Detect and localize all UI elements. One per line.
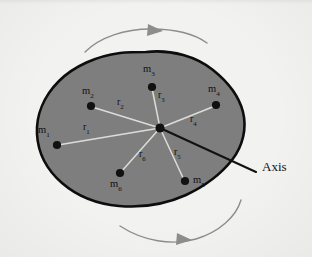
top-rotation-arrow (85, 24, 207, 52)
mass-point-4 (212, 101, 220, 109)
mass-label-6: m6 (110, 179, 122, 192)
mass-point-3 (148, 83, 156, 91)
rigid-body-shape (37, 51, 245, 206)
axis-label: Axis (262, 160, 287, 173)
mass-label-1: m1 (38, 125, 50, 138)
radius-label-6: r6 (139, 149, 146, 162)
mass-label-3: m3 (143, 64, 155, 77)
mass-point-5 (181, 177, 189, 185)
radius-label-3: r3 (158, 90, 165, 103)
mass-label-2: m2 (82, 86, 94, 99)
rigid-body-rotation-figure: m1 m2 m3 m4 m5 m6 r1 r2 r3 r4 r5 r6 Axis (0, 0, 312, 257)
rotation-center-point (155, 123, 164, 132)
radius-label-1: r1 (83, 122, 90, 135)
mass-label-5: m5 (193, 175, 205, 188)
radius-label-2: r2 (117, 97, 124, 110)
radius-label-5: r5 (174, 147, 181, 160)
mass-point-1 (53, 141, 61, 149)
mass-label-4: m4 (208, 84, 220, 97)
radius-label-4: r4 (190, 114, 197, 127)
mass-point-6 (116, 169, 124, 177)
mass-point-2 (87, 102, 95, 110)
